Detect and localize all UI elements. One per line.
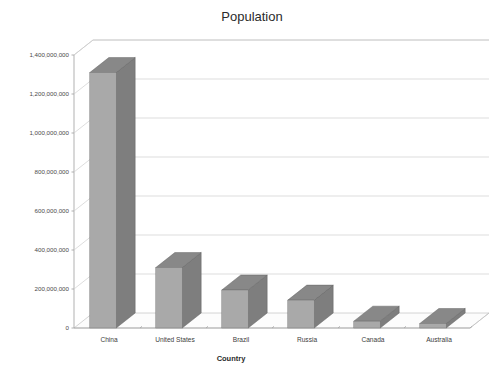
y-axis-tick-label: 0 — [66, 324, 70, 331]
bar-china — [90, 58, 135, 328]
bar-front-face — [90, 73, 116, 328]
y-axis-tick-label: 800,000,000 — [35, 168, 70, 175]
bar-front-face — [156, 268, 182, 328]
y-axis-tick-label: 1,000,000,000 — [29, 129, 69, 136]
chart-title: Population — [221, 9, 282, 24]
bar-front-face — [288, 300, 314, 328]
x-axis-tick-label: Australia — [426, 336, 452, 343]
gridline — [74, 157, 489, 172]
gridline — [74, 235, 489, 250]
y-axis-tick-label: 400,000,000 — [35, 246, 70, 253]
bar-side-face — [116, 58, 135, 328]
x-axis-tick-label: Brazil — [233, 336, 250, 343]
chart-axes-scaffold — [74, 40, 489, 328]
x-axis-tick-label: United States — [155, 336, 195, 343]
gridline — [74, 40, 489, 55]
population-bar-chart: Population 0200,000,000400,000,000600,00… — [0, 0, 498, 379]
chart-canvas: Population 0200,000,000400,000,000600,00… — [0, 0, 498, 379]
x-axis-title: Country — [217, 354, 247, 363]
gridline — [74, 118, 489, 133]
gridline — [74, 274, 489, 289]
x-axis-tick-label: Russia — [297, 336, 317, 343]
chart-gridlines — [74, 40, 489, 289]
y-axis-tick-label: 1,200,000,000 — [29, 90, 69, 97]
chart-bars — [90, 58, 465, 328]
y-axis-tick-label: 1,400,000,000 — [29, 51, 69, 58]
bar-front-face — [222, 290, 248, 328]
x-axis-tick-label: Canada — [361, 336, 384, 343]
gridline — [74, 196, 489, 211]
x-axis-tick-label: China — [100, 336, 118, 343]
gridline — [74, 79, 489, 94]
bar-front-face — [420, 324, 446, 328]
bar-front-face — [354, 321, 380, 328]
x-axis: ChinaUnited StatesBrazilRussiaCanadaAust… — [100, 326, 472, 343]
bar-united-states — [156, 253, 201, 328]
y-axis-tick-label: 600,000,000 — [35, 207, 70, 214]
y-axis: 0200,000,000400,000,000600,000,000800,00… — [29, 51, 74, 331]
y-axis-tick-label: 200,000,000 — [35, 285, 70, 292]
